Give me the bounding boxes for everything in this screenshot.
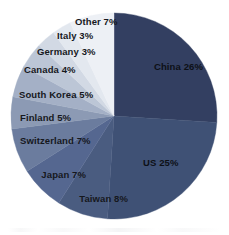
pie-chart-canvas: [0, 0, 229, 235]
pie-slice-us[interactable]: [108, 116, 217, 219]
pie-slice-china[interactable]: [114, 13, 217, 122]
pie-slice-group: [11, 13, 217, 219]
footer-artifact: [8, 228, 221, 232]
pie-chart: China 26%US 25%Taiwan 8%Japan 7%Switzerl…: [0, 0, 229, 235]
